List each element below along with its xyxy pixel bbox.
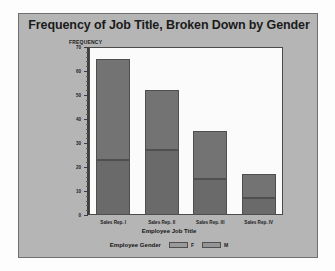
bar-stack[interactable] (145, 90, 179, 215)
y-axis-minor-tick (86, 138, 88, 139)
y-axis-tick-label: 60 (19, 69, 81, 74)
bar-stack[interactable] (242, 174, 276, 215)
y-axis-tick-label: 70 (19, 45, 81, 50)
y-axis-minor-tick (86, 129, 88, 130)
y-axis-minor-tick (86, 100, 88, 101)
chart-legend: Employee Gender F M (19, 242, 319, 248)
y-axis-minor-tick (86, 76, 88, 77)
bar-segment-f[interactable] (96, 59, 130, 160)
y-axis-minor-tick (86, 52, 88, 53)
x-axis-title: Employee Job Title (19, 228, 319, 234)
y-axis-minor-tick (86, 210, 88, 211)
chart-panel: Frequency of Job Title, Broken Down by G… (18, 13, 318, 258)
y-axis-tick-label: 40 (19, 117, 81, 122)
x-axis-tick-label: Sales Rep. I (100, 220, 126, 225)
y-axis-tick (84, 167, 88, 168)
legend-swatch-f-icon (169, 242, 188, 248)
y-axis-minor-tick (86, 61, 88, 62)
y-axis-tick (84, 95, 88, 96)
bar-stack[interactable] (96, 59, 130, 215)
bar-segment-f[interactable] (242, 174, 276, 198)
y-axis-minor-tick (86, 90, 88, 91)
y-axis-minor-tick (86, 133, 88, 134)
y-axis-minor-tick (86, 105, 88, 106)
legend-label-f: F (191, 242, 194, 248)
legend-entry-m[interactable]: M (202, 242, 228, 248)
x-axis-tick-label: Sales Rep. IV (244, 220, 273, 225)
y-axis-minor-tick (86, 85, 88, 86)
y-axis-minor-tick (86, 157, 88, 158)
y-axis-minor-tick (86, 57, 88, 58)
y-axis-minor-tick (86, 181, 88, 182)
y-axis-minor-tick (86, 114, 88, 115)
y-axis-tick-label: 30 (19, 141, 81, 146)
legend-title: Employee Gender (110, 242, 161, 248)
y-axis-minor-tick (86, 201, 88, 202)
bar-segment-m[interactable] (193, 179, 227, 215)
x-axis-tick-label: Sales Rep. III (196, 220, 224, 225)
y-axis-minor-tick (86, 186, 88, 187)
y-axis-minor-tick (86, 124, 88, 125)
y-axis-tick (84, 71, 88, 72)
y-axis-tick (84, 119, 88, 120)
x-axis-tick-label: Sales Rep. II (148, 220, 175, 225)
y-axis-tick (84, 143, 88, 144)
y-axis-minor-tick (86, 172, 88, 173)
y-axis-tick-label: 20 (19, 165, 81, 170)
y-axis-minor-tick (86, 109, 88, 110)
y-axis-minor-tick (86, 177, 88, 178)
y-axis-minor-tick (86, 153, 88, 154)
y-axis-tick (84, 191, 88, 192)
y-axis-tick-label: 10 (19, 189, 81, 194)
bar-segment-m[interactable] (145, 150, 179, 215)
bar-segment-f[interactable] (145, 90, 179, 150)
y-axis-minor-tick (86, 148, 88, 149)
legend-entry-f[interactable]: F (169, 242, 194, 248)
y-axis-tick (84, 215, 88, 216)
chart-title: Frequency of Job Title, Broken Down by G… (19, 18, 319, 32)
legend-swatch-m-icon (202, 242, 221, 248)
y-axis-minor-tick (86, 196, 88, 197)
y-axis-tick-label: 0 (19, 213, 81, 218)
chart-page: Frequency of Job Title, Broken Down by G… (0, 0, 335, 271)
bar-segment-f[interactable] (193, 131, 227, 179)
y-axis-tick (84, 47, 88, 48)
y-axis-tick-label: 50 (19, 93, 81, 98)
bar-stack[interactable] (193, 131, 227, 215)
y-axis-minor-tick (86, 66, 88, 67)
legend-label-m: M (224, 242, 228, 248)
y-axis-minor-tick (86, 162, 88, 163)
y-axis-minor-tick (86, 81, 88, 82)
y-axis-minor-tick (86, 205, 88, 206)
bar-segment-m[interactable] (242, 198, 276, 215)
bar-segment-m[interactable] (96, 160, 130, 215)
